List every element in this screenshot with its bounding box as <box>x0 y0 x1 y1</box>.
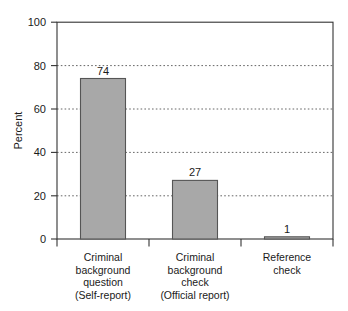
bar-value-label-0: 74 <box>97 65 109 77</box>
bar-criminal-background-check[interactable] <box>173 180 218 239</box>
category-label-line: Criminal <box>176 251 215 263</box>
category-label-line: Reference <box>263 251 312 263</box>
category-label-line: Criminal <box>84 251 123 263</box>
category-label-line: background <box>76 264 131 276</box>
y-axis-title: Percent <box>12 112 24 150</box>
y-tick-label-20: 20 <box>34 190 46 202</box>
category-label-line: (Official report) <box>160 289 229 301</box>
category-label-line: (Self-report) <box>75 289 131 301</box>
bar-value-label-1: 27 <box>189 166 201 178</box>
bar-reference-check[interactable] <box>265 237 310 239</box>
chart-canvas: 100 80 60 40 20 0 Percent 74 27 1 Crimin… <box>0 0 348 311</box>
y-tick-label-60: 60 <box>34 103 46 115</box>
bar-criminal-background-question[interactable] <box>81 79 126 240</box>
category-label-line: check <box>273 264 301 276</box>
bar-value-label-2: 1 <box>284 223 290 235</box>
y-tick-label-100: 100 <box>28 16 46 28</box>
bar-chart: 100 80 60 40 20 0 Percent 74 27 1 Crimin… <box>0 0 348 311</box>
category-label-line: background <box>168 264 223 276</box>
category-label-line: check <box>181 276 209 288</box>
category-label-line: question <box>83 276 123 288</box>
y-tick-label-80: 80 <box>34 60 46 72</box>
y-tick-label-0: 0 <box>40 233 46 245</box>
y-tick-label-40: 40 <box>34 146 46 158</box>
